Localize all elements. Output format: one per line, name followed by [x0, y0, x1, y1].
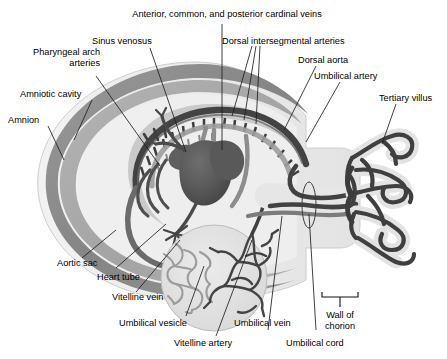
label-aortic-sac: Aortic sac	[57, 258, 97, 269]
label-wall-of-chorion-line2: chorion	[316, 321, 364, 332]
label-umbilical-artery: Umbilical artery	[314, 71, 377, 82]
label-pharyngeal-arch-arteries-line2: arteries	[12, 58, 100, 69]
label-sinus-venosus: Sinus venosus	[92, 36, 152, 47]
label-dorsal-aorta: Dorsal aorta	[298, 55, 348, 66]
label-vitelline-artery: Vitelline artery	[174, 338, 232, 349]
label-umbilical-vein: Umbilical vein	[234, 318, 291, 329]
label-umbilical-vesicle: Umbilical vesicle	[119, 318, 187, 329]
anatomical-figure: Anterior, common, and posterior cardinal…	[0, 0, 447, 359]
label-amniotic-cavity: Amniotic cavity	[20, 89, 81, 100]
tertiary-villi-group	[347, 135, 414, 264]
label-heart-tube: Heart tube	[97, 272, 140, 283]
wall-of-chorion-bracket	[322, 292, 358, 307]
umbilical-vesicle	[161, 225, 267, 331]
label-pharyngeal-arch-arteries-line1: Pharyngeal arch	[12, 47, 100, 58]
label-vitelline-vein: Vitelline vein	[112, 292, 163, 303]
label-tertiary-villus: Tertiary villus	[379, 93, 432, 104]
label-amnion: Amnion	[8, 115, 39, 126]
leader-umbilical-artery	[306, 82, 340, 142]
label-wall-of-chorion-line1: Wall of	[316, 310, 364, 321]
label-anterior-common-posterior-cardinal-veins: Anterior, common, and posterior cardinal…	[112, 9, 342, 20]
label-dorsal-intersegmental-arteries: Dorsal intersegmental arteries	[222, 36, 345, 47]
label-umbilical-cord: Umbilical cord	[286, 338, 344, 349]
umbilical-artery-lower	[270, 204, 356, 207]
